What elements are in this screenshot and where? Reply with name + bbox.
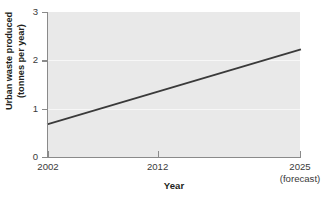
x-axis-title: Year	[48, 180, 300, 191]
plot-area	[48, 12, 300, 157]
x-tick-mark-2002	[48, 151, 49, 157]
line-chart-figure: Urban waste produced (tonnes per year) 3…	[0, 0, 326, 198]
x-tick-mark-2025	[300, 151, 301, 157]
x-tick-label-2012-text: 2012	[147, 161, 168, 172]
x-axis-line	[47, 157, 301, 158]
y-axis-line	[47, 12, 48, 158]
data-series-line	[48, 12, 300, 157]
y-tick-mark-0	[42, 157, 48, 158]
series-line-urban-waste	[48, 50, 300, 124]
x-tick-label-2002-text: 2002	[37, 161, 58, 172]
y-tick-mark-2	[42, 60, 48, 61]
y-tick-mark-3	[42, 12, 48, 13]
x-tick-label-2002: 2002	[8, 161, 88, 173]
y-tick-mark-1	[42, 109, 48, 110]
y-axis-title: Urban waste produced (tonnes per year)	[1, 0, 29, 139]
y-tick-label-3: 3	[0, 7, 38, 17]
x-tick-label-2012: 2012	[118, 161, 198, 173]
x-tick-mark-2012	[158, 151, 159, 157]
y-tick-label-2: 2	[0, 55, 38, 65]
y-tick-label-1: 1	[0, 104, 38, 114]
x-tick-label-2025-text: 2025	[289, 161, 310, 172]
